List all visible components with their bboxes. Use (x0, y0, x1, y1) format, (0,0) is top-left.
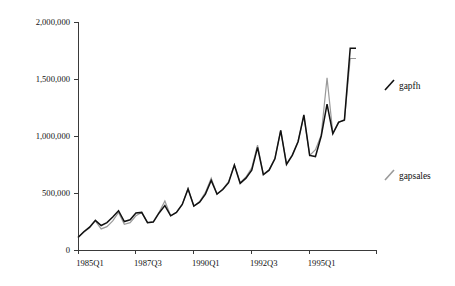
series-line-gapsales (78, 58, 356, 237)
y-tick-label: 1,500,000 (36, 74, 70, 84)
x-tick-label: 1985Q1 (76, 258, 104, 268)
legend-swatch-gapfh (385, 80, 394, 90)
time-series-chart: 0500,0001,000,0001,500,0002,000,000 1985… (0, 0, 455, 286)
legend-label-gapfh: gapfh (399, 81, 421, 91)
x-axis-group: 1985Q11987Q31990Q11992Q31995Q1 (76, 250, 376, 268)
y-axis-group: 0500,0001,000,0001,500,0002,000,000 (36, 17, 78, 255)
x-tick-label: 1987Q3 (134, 258, 162, 268)
series-line-gapfh (78, 48, 356, 237)
x-tick-label: 1990Q1 (192, 258, 220, 268)
x-tick-group: 1985Q11987Q31990Q11992Q31995Q1 (76, 250, 376, 268)
x-tick-label: 1992Q3 (250, 258, 278, 268)
legend-label-gapsales: gapsales (399, 171, 431, 181)
legend: gapfh gapsales (385, 80, 431, 181)
y-tick-label: 0 (66, 245, 70, 255)
x-tick-label: 1995Q1 (308, 258, 336, 268)
y-tick-label: 1,000,000 (36, 131, 70, 141)
y-tick-group: 0500,0001,000,0001,500,0002,000,000 (36, 17, 78, 255)
y-tick-label: 500,000 (42, 188, 70, 198)
series-group (78, 48, 356, 237)
chart-container: 0500,0001,000,0001,500,0002,000,000 1985… (0, 0, 455, 286)
y-tick-label: 2,000,000 (36, 17, 70, 27)
legend-swatch-gapsales (385, 170, 394, 180)
